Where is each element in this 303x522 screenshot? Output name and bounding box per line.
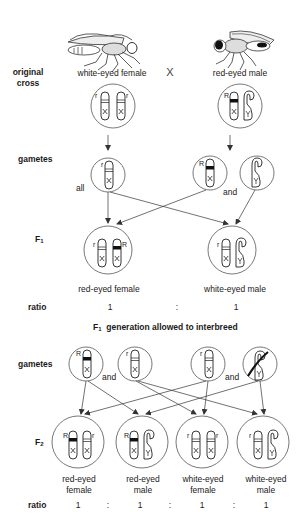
svg-text:R: R (76, 350, 81, 357)
f2-label-1-line2: male (126, 485, 160, 496)
f2-label-2-line2: female (182, 485, 223, 496)
f1-gamete-y (243, 347, 277, 381)
f1-label: F1 (35, 234, 44, 247)
svg-text:R: R (224, 92, 229, 99)
f1-female-genotype (84, 226, 132, 274)
f2-label-3-line2: male (245, 485, 286, 496)
f2-white-eyed-male-label: white-eyed male (245, 474, 286, 496)
f2-label-1-line1: red-eyed (126, 474, 160, 485)
f2-ratio-sep-3: : (233, 500, 235, 510)
female-parent-genotype (91, 84, 135, 128)
f2-cross-arrows (81, 381, 264, 414)
f1-gamete-xR (69, 347, 103, 381)
f2-ratio-label: ratio (28, 500, 46, 511)
f1-gamete-xr-male (191, 347, 225, 381)
f1-gamete-xr-female (118, 347, 152, 381)
and-label-3: and (225, 372, 239, 382)
red-eyed-fly-icon (214, 31, 274, 70)
f2-white-eyed-female-genotype (176, 416, 228, 468)
cross-symbol: X (166, 66, 173, 78)
svg-text:R: R (199, 160, 204, 167)
f1-male-genotype (208, 226, 256, 274)
f2-red-eyed-female-label: red-eyed female (62, 474, 96, 496)
female-parent-label: white-eyed female (78, 68, 147, 78)
gametes-label-1: gametes (18, 154, 53, 165)
gamete-female-xr (91, 158, 125, 192)
f2-ratio-3: 1 (200, 500, 205, 510)
f2-red-eyed-female-genotype (52, 416, 104, 468)
male-parent-genotype (218, 84, 262, 128)
f2-label-2-line1: white-eyed (182, 474, 223, 485)
f1-female-label: red-eyed female (78, 284, 139, 294)
all-label: all (76, 183, 85, 193)
svg-text:R: R (124, 432, 129, 439)
f1-ratio-2: 1 (234, 302, 239, 312)
original-cross-label-line1: original (8, 67, 48, 78)
original-cross-label: original cross (8, 67, 48, 89)
f1-ratio-1: 1 (108, 302, 113, 312)
f2-ratio-sep-2: : (169, 500, 171, 510)
f1-label-sub: 1 (40, 238, 43, 244)
f2-white-eyed-male-genotype (237, 416, 289, 468)
gamete-male-y (240, 156, 274, 190)
f2-red-eyed-male-label: red-eyed male (126, 474, 160, 496)
f2-white-eyed-female-label: white-eyed female (182, 474, 223, 496)
interbreed-heading: F1 generation allowed to interbreed (93, 322, 238, 332)
f2-red-eyed-male-genotype (116, 416, 168, 468)
f2-ratio-2: 1 (138, 500, 143, 510)
male-parent-label: red-eyed male (213, 68, 267, 78)
and-label-1: and (223, 187, 237, 197)
f2-label: F2 (35, 437, 44, 450)
f2-label-0-line1: red-eyed (62, 474, 96, 485)
svg-text:R: R (63, 432, 68, 439)
f1-ratio-sep: : (176, 302, 178, 312)
interbreed-text: generation allowed to interbreed (106, 322, 237, 332)
gametes-label-2: gametes (18, 359, 53, 370)
f2-label-3-line1: white-eyed (245, 474, 286, 485)
interbreed-prefix-sub: 1 (98, 326, 101, 332)
white-eyed-fly-icon (68, 34, 140, 72)
f1-ratio-label: ratio (28, 302, 46, 313)
f2-label-sub: 2 (40, 441, 43, 447)
f1-male-label: white-eyed male (204, 284, 266, 294)
original-cross-label-line2: cross (8, 78, 48, 89)
f2-label-0-line2: female (62, 485, 96, 496)
f2-ratio-1: 1 (76, 500, 81, 510)
f2-ratio-4: 1 (264, 500, 269, 510)
and-label-2: and (102, 372, 116, 382)
svg-text:R: R (122, 241, 127, 248)
f2-ratio-sep-1: : (107, 500, 109, 510)
